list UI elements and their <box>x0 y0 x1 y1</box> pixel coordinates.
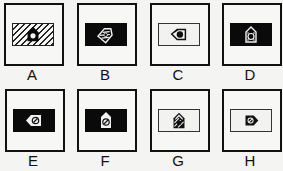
tag-icon <box>85 23 127 46</box>
tag-icon <box>13 109 55 132</box>
panel-b-label: B <box>73 67 137 82</box>
panel-g-label: G <box>146 153 210 168</box>
panel-c: C <box>146 0 218 86</box>
house-icon <box>159 110 199 131</box>
panel-g: G <box>146 86 218 171</box>
panel-f-frame <box>77 89 137 152</box>
panel-a: A <box>0 0 72 86</box>
panel-h: H <box>218 86 283 171</box>
panel-d: D <box>218 0 283 86</box>
house-icon <box>85 109 127 132</box>
panel-h-label: H <box>218 153 282 168</box>
panel-e-black-rect <box>13 109 55 132</box>
tag-icon <box>231 110 271 131</box>
panel-c-outline-rect <box>158 23 200 46</box>
panel-f-black-rect <box>85 109 127 132</box>
panel-d-black-rect <box>230 23 272 46</box>
tag-icon <box>159 24 199 45</box>
panel-e-label: E <box>1 153 65 168</box>
panel-a-frame <box>4 3 64 66</box>
panel-b: B <box>73 0 145 86</box>
panel-f-label: F <box>73 153 137 168</box>
panel-g-outline-rect <box>158 109 200 132</box>
panel-b-black-rect <box>85 23 127 46</box>
panel-g-frame <box>150 89 210 152</box>
panel-e-frame <box>5 89 65 152</box>
panel-b-frame <box>77 3 137 66</box>
panel-h-frame <box>222 89 282 152</box>
panel-a-hatched-rect <box>12 23 54 46</box>
panel-e: E <box>1 86 73 171</box>
panel-d-frame <box>222 3 282 66</box>
panel-c-label: C <box>146 67 210 82</box>
panel-f: F <box>73 86 145 171</box>
panel-a-label: A <box>0 67 64 82</box>
panel-d-label: D <box>218 67 282 82</box>
panel-c-frame <box>150 3 210 66</box>
house-icon <box>230 23 272 46</box>
panel-h-outline-rect <box>230 109 272 132</box>
house-icon <box>13 24 53 45</box>
